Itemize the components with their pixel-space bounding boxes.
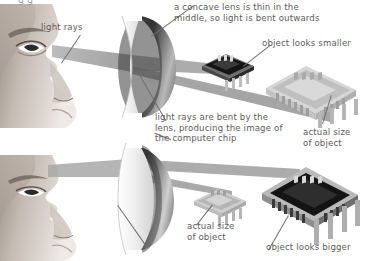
concave-lens xyxy=(106,12,186,122)
label-object-looks-smaller: object looks smaller xyxy=(262,38,351,49)
panel-concave-lens: light rays a concave lens is thin in the… xyxy=(0,0,367,128)
computer-chip-small-dark xyxy=(196,50,260,94)
label-actual-size-bottom: actual size of object xyxy=(187,221,235,242)
computer-chip-large-dark xyxy=(256,155,367,249)
label-actual-size-top: actual size of object xyxy=(303,127,351,148)
label-concave-description: a concave lens is thin in the middle, so… xyxy=(174,2,320,23)
lens-diagram-figure: g g xyxy=(0,0,367,261)
label-convex-description: light rays are bent by the lens, produci… xyxy=(155,112,283,144)
clipped-title-fragment: g g xyxy=(18,0,34,5)
label-light-rays: light rays xyxy=(41,22,83,33)
panel-convex-lens: actual size of object object looks bigge… xyxy=(0,133,367,261)
label-object-looks-bigger: object looks bigger xyxy=(266,242,351,253)
convex-lens xyxy=(104,135,186,259)
